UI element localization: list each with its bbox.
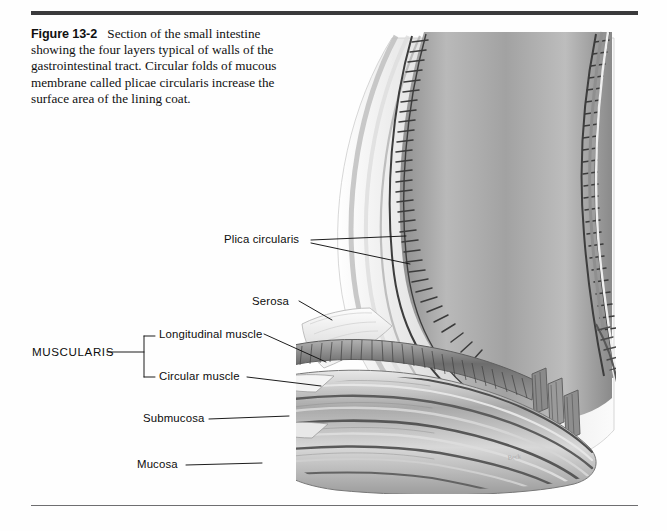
figure-number: Figure 13-2	[31, 27, 107, 41]
label-submucosa: Submucosa	[143, 412, 205, 424]
label-mucosa: Mucosa	[137, 458, 178, 470]
leader-mucosa	[186, 463, 262, 465]
bottom-rule	[31, 505, 638, 506]
label-serosa: Serosa	[252, 295, 289, 307]
top-rule	[31, 11, 638, 15]
leader-submucosa	[209, 416, 289, 419]
intestine-illustration-svg: Beck	[296, 24, 616, 494]
label-plica-circularis: Plica circularis	[224, 233, 299, 245]
label-muscularis: MUSCULARIS	[32, 345, 114, 358]
figure-caption: Figure 13-2Section of the small intestin…	[31, 26, 299, 107]
intestine-illustration: Beck	[296, 24, 616, 494]
label-circular-muscle: Circular muscle	[159, 370, 240, 382]
label-longitudinal-muscle: Longitudinal muscle	[159, 328, 263, 340]
figure-page: Beck Figure 13-2Section of the s	[0, 0, 667, 531]
